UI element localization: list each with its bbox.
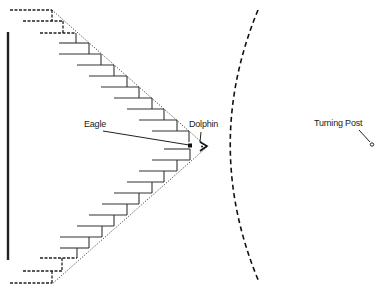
dolphin-label: Dolphin	[189, 119, 218, 129]
v-outline	[52, 10, 207, 284]
top-solid-steps	[59, 33, 189, 142]
dashed-arc	[230, 10, 259, 282]
turning-post-leader	[359, 130, 370, 142]
bottom-solid-steps	[60, 149, 190, 258]
turning-post-label: Turning Post	[314, 118, 362, 128]
dolphin-leader	[200, 132, 201, 142]
eagle-marker-icon	[188, 144, 192, 148]
formation-diagram	[0, 0, 383, 287]
eagle-leader	[103, 131, 189, 145]
eagle-label: Eagle	[84, 119, 106, 129]
turning-post-circle-icon	[370, 143, 373, 146]
top-dashed-steps	[10, 10, 76, 33]
bottom-dashed-steps	[10, 258, 77, 283]
